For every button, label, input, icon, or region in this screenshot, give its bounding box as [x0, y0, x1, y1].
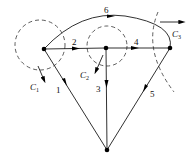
edge-label-4: 4 [134, 37, 139, 47]
graph-diagram: 1 2 3 4 5 6 C1 C2 C3 [0, 0, 187, 160]
cutset-c3-arc [153, 12, 174, 92]
edge-2-arrow [72, 47, 80, 51]
cutset-label-c3: C3 [172, 29, 181, 40]
edge-label-6: 6 [104, 5, 109, 15]
node-c [168, 46, 173, 51]
edge-6 [44, 15, 170, 49]
cutset-label-c1: C1 [30, 82, 39, 93]
node-a [42, 47, 47, 52]
cutset-c1-circle [15, 20, 65, 70]
cutset-c1-arrow [38, 66, 44, 80]
edge-label-3: 3 [96, 84, 101, 94]
cutset-label-c2: C2 [80, 70, 89, 81]
edge-1-arrow [62, 78, 67, 86]
node-d [105, 148, 110, 153]
edge-3 [106, 48, 107, 150]
edge-1 [44, 49, 107, 150]
cutset-c2-arrow [96, 55, 103, 71]
edge-3-arrow [105, 80, 109, 88]
edge-label-5: 5 [150, 89, 155, 99]
edge-label-2: 2 [72, 37, 77, 47]
edge-label-1: 1 [56, 85, 61, 95]
node-b [104, 46, 109, 51]
